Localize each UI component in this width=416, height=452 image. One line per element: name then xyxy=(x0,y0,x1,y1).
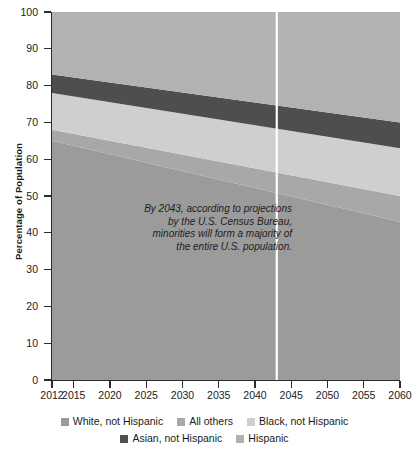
x-tick xyxy=(73,381,74,388)
chart-legend: White, not HispanicAll othersBlack, not … xyxy=(0,413,409,447)
y-tick-label: 100 xyxy=(0,7,38,18)
y-tick xyxy=(44,195,51,196)
y-tick xyxy=(44,343,51,344)
y-tick-label: 40 xyxy=(0,227,38,238)
annotation-line-2: by the U.S. Census Bureau, xyxy=(74,216,292,229)
plot-area xyxy=(52,12,400,380)
y-tick-label: 60 xyxy=(0,154,38,165)
legend-swatch-icon xyxy=(61,418,69,426)
y-tick-label: 30 xyxy=(0,264,38,275)
x-tick xyxy=(218,381,219,388)
x-tick xyxy=(254,381,255,388)
legend-item[interactable]: Hispanic xyxy=(236,433,288,444)
legend-swatch-icon xyxy=(177,418,185,426)
marker-line-2043 xyxy=(276,12,278,380)
legend-swatch-icon xyxy=(236,435,244,443)
stacked-area-svg xyxy=(52,12,400,380)
x-tick xyxy=(51,381,52,388)
legend-item[interactable]: Black, not Hispanic xyxy=(247,416,348,427)
x-tick xyxy=(327,381,328,388)
y-tick-label: 50 xyxy=(0,191,38,202)
annotation-line-1: By 2043, according to projections xyxy=(74,203,292,216)
y-tick-label: 0 xyxy=(0,375,38,386)
x-tick xyxy=(182,381,183,388)
legend-row: White, not HispanicAll othersBlack, not … xyxy=(0,413,409,430)
legend-label: Asian, not Hispanic xyxy=(132,433,222,444)
y-tick-label: 90 xyxy=(0,43,38,54)
legend-item[interactable]: Asian, not Hispanic xyxy=(120,433,222,444)
y-tick xyxy=(44,85,51,86)
y-tick xyxy=(44,306,51,307)
annotation-line-4: the entire U.S. population. xyxy=(74,241,292,254)
y-tick-label: 20 xyxy=(0,301,38,312)
chart-annotation: By 2043, according to projections by the… xyxy=(74,203,292,253)
x-tick xyxy=(146,381,147,388)
y-axis-title: Percentage of Population xyxy=(13,122,24,282)
legend-label: Black, not Hispanic xyxy=(259,416,348,427)
y-tick xyxy=(44,232,51,233)
y-tick xyxy=(44,48,51,49)
y-tick xyxy=(44,122,51,123)
x-axis-line xyxy=(51,380,400,381)
annotation-line-3: minorities will form a majority of xyxy=(74,228,292,241)
legend-item[interactable]: White, not Hispanic xyxy=(61,416,163,427)
legend-row: Asian, not HispanicHispanic xyxy=(0,430,409,447)
x-tick xyxy=(399,381,400,388)
y-tick-label: 10 xyxy=(0,338,38,349)
legend-label: White, not Hispanic xyxy=(73,416,163,427)
legend-swatch-icon xyxy=(247,418,255,426)
legend-label: Hispanic xyxy=(248,433,288,444)
legend-item[interactable]: All others xyxy=(177,416,233,427)
x-tick xyxy=(363,381,364,388)
y-tick xyxy=(44,11,51,12)
x-tick xyxy=(109,381,110,388)
y-tick xyxy=(44,269,51,270)
legend-swatch-icon xyxy=(120,435,128,443)
y-tick xyxy=(44,379,51,380)
y-tick-label: 80 xyxy=(0,80,38,91)
y-tick xyxy=(44,159,51,160)
x-tick xyxy=(291,381,292,388)
y-tick-label: 70 xyxy=(0,117,38,128)
legend-label: All others xyxy=(189,416,233,427)
x-tick-label: 2060 xyxy=(378,390,416,401)
